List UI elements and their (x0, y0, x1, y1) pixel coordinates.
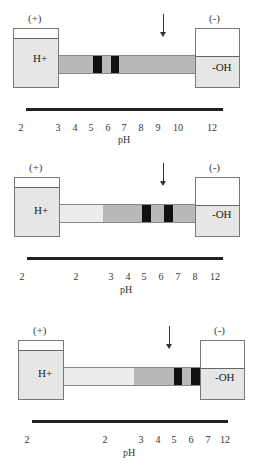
anode-sign: (+) (28, 12, 42, 24)
gel-strip (59, 55, 195, 74)
ph-axis (32, 420, 228, 423)
tick: 5 (142, 271, 147, 282)
anode-solution-label: H+ (34, 204, 48, 216)
tick: 7 (206, 434, 211, 445)
anode-solution-label: H+ (38, 367, 52, 379)
tick: 2 (25, 434, 30, 445)
tick: 7 (176, 271, 181, 282)
protein-band-1 (93, 56, 102, 73)
tick: 3 (109, 271, 114, 282)
cathode-sign: (-) (209, 161, 220, 173)
tick: 7 (122, 122, 127, 133)
ph-gradient (59, 56, 195, 73)
protein-band-1 (142, 205, 151, 222)
anode-reservoir: H+ (14, 177, 60, 237)
cathode-solution-label: -OH (212, 208, 232, 220)
tick: 4 (126, 271, 131, 282)
protein-band-1 (174, 368, 182, 385)
tick: 12 (220, 434, 230, 445)
tick: 12 (210, 271, 220, 282)
tick: 4 (73, 122, 78, 133)
anode-sign: (+) (33, 324, 47, 336)
axis-label: pH (120, 284, 132, 295)
tick: 2 (103, 434, 108, 445)
cathode-solution-label: -OH (212, 61, 232, 73)
ph-axis (27, 257, 223, 260)
protein-band-2 (111, 56, 119, 73)
gel-strip (60, 204, 195, 223)
tick: 6 (159, 271, 164, 282)
cathode-reservoir: -OH (200, 340, 245, 400)
protein-band-2 (191, 368, 200, 385)
protein-band-2 (164, 205, 173, 222)
panel-2: (+) (-) H+ -OH 2 2 3 4 5 6 7 8 12 pH (0, 150, 256, 300)
panel-3: (+) (-) H+ -OH 2 2 3 4 5 6 7 12 pH (0, 300, 256, 467)
arrow-head-icon (160, 32, 166, 37)
ph-axis (26, 108, 223, 111)
axis-label: pH (123, 447, 135, 458)
sample-arrow-icon (163, 163, 164, 181)
axis-label: pH (118, 134, 130, 145)
tick: 6 (189, 434, 194, 445)
anode-reservoir: H+ (13, 28, 59, 88)
cathode-reservoir: -OH (195, 28, 240, 88)
cathode-solution-label: -OH (215, 371, 235, 383)
arrow-head-icon (166, 344, 172, 349)
cathode-sign: (-) (214, 324, 225, 336)
tick: 5 (89, 122, 94, 133)
tick: 3 (56, 122, 61, 133)
anode-solution-label: H+ (33, 52, 47, 64)
sample-arrow-icon (163, 14, 164, 32)
tick: 5 (172, 434, 177, 445)
tick: 2 (19, 122, 24, 133)
tick: 12 (207, 122, 217, 133)
arrow-head-icon (160, 181, 166, 186)
tick: 8 (193, 271, 198, 282)
anode-reservoir: H+ (18, 340, 64, 400)
cathode-sign: (-) (209, 12, 220, 24)
cathode-reservoir: -OH (195, 177, 240, 237)
panel-1: (+) (-) H+ -OH 2 3 4 5 6 7 8 9 10 12 pH (0, 0, 256, 150)
tick: 8 (139, 122, 144, 133)
anode-sign: (+) (29, 161, 43, 173)
tick: 2 (74, 271, 79, 282)
tick: 9 (156, 122, 161, 133)
tick: 2 (20, 271, 25, 282)
sample-arrow-icon (169, 326, 170, 344)
tick: 4 (156, 434, 161, 445)
gel-strip (64, 367, 200, 386)
tick: 10 (173, 122, 183, 133)
tick: 6 (106, 122, 111, 133)
tick: 3 (139, 434, 144, 445)
